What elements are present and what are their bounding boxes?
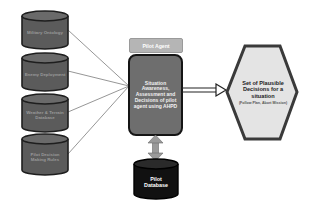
- connector-lines: [68, 30, 129, 154]
- source-label-4: Pilot Decision Making Rules: [24, 145, 66, 169]
- pilot-agent-tag: Pilot Agent: [129, 38, 183, 53]
- output-title: Set of Plausible Decisions for a situati…: [238, 80, 288, 99]
- source-label-1: Military Ontology: [24, 22, 66, 44]
- output-arrow: [182, 84, 226, 96]
- source-label-2: Enemy Deployment: [24, 64, 66, 86]
- output-subtitle: (Follow Plan, Abort Mission): [239, 101, 287, 105]
- output-label-group: Set of Plausible Decisions for a situati…: [238, 60, 288, 125]
- database-link-arrow: [148, 135, 163, 161]
- database-label: Pilot Database: [138, 171, 174, 193]
- source-label-3: Weather & Terrain Database: [24, 104, 66, 126]
- process-label: Situation Awareness, Assessment and Deci…: [133, 60, 178, 130]
